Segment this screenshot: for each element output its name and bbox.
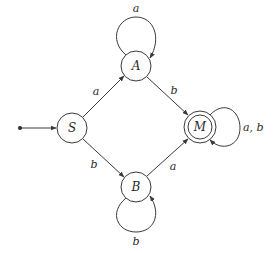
state-B: B (121, 172, 151, 202)
state-B-label: B (131, 180, 141, 194)
start-arrow (18, 126, 56, 130)
state-M-accepting: M (184, 111, 216, 143)
automaton-diagram: S A B M a b a b b a a, b (0, 0, 274, 253)
state-A-label: A (131, 59, 141, 73)
edge-A-M (147, 77, 188, 115)
state-M-label: M (193, 120, 207, 134)
label-B-M: a (170, 160, 177, 173)
label-S-A: a (93, 85, 100, 98)
label-B-loop: b (132, 235, 139, 248)
edge-S-B (83, 139, 124, 177)
label-M-loop: a, b (243, 121, 264, 134)
label-S-B: b (90, 158, 97, 171)
edge-S-A (83, 76, 124, 117)
state-A: A (121, 51, 151, 81)
state-S-label: S (68, 121, 76, 135)
label-A-loop: a (133, 2, 140, 15)
state-S: S (57, 113, 87, 143)
edge-B-M (147, 139, 188, 176)
label-A-M: b (170, 84, 177, 97)
